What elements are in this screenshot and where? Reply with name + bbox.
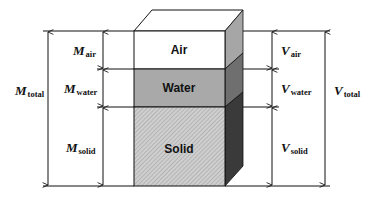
- label-m-water: Mwater: [63, 81, 98, 97]
- label-m-air: Mair: [72, 43, 96, 59]
- label-m-solid: Msolid: [65, 140, 96, 156]
- phase-label-solid: Solid: [164, 142, 193, 156]
- label-m-total: Mtotal: [14, 83, 45, 99]
- label-v-water: Vwater: [281, 81, 312, 97]
- phase-label-water: Water: [163, 81, 196, 95]
- phase-label-air: Air: [171, 43, 188, 57]
- label-v-air: Vair: [281, 43, 301, 59]
- cube-top-face: [134, 10, 243, 31]
- label-v-solid: Vsolid: [281, 140, 308, 156]
- label-v-total: Vtotal: [334, 83, 361, 99]
- phase-diagram: Air Water Solid Mtotal Mair Mwater Msoli…: [0, 0, 368, 198]
- solid-side-face: [225, 92, 243, 186]
